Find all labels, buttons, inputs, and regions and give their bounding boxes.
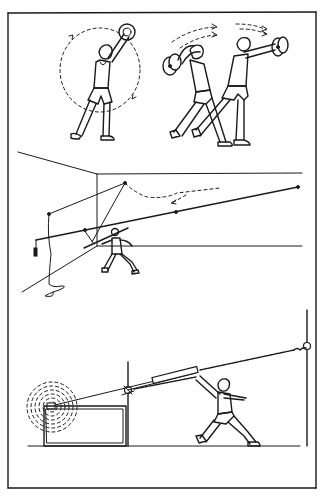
arrow-head-icon bbox=[132, 95, 136, 99]
pulling-athlete bbox=[196, 376, 260, 446]
panel-2-javelin-rig bbox=[18, 152, 302, 297]
cord bbox=[45, 214, 65, 297]
spring-coil bbox=[27, 382, 77, 432]
panel-1-weight-swings bbox=[60, 24, 288, 146]
athlete-2 bbox=[163, 45, 232, 146]
frame bbox=[8, 12, 316, 488]
weight bbox=[34, 248, 37, 256]
motion-arrow bbox=[172, 27, 216, 42]
javelin-thrower bbox=[102, 229, 139, 275]
cable bbox=[49, 183, 125, 214]
panel-3-pull-cable bbox=[27, 310, 311, 446]
spring-cable bbox=[200, 350, 294, 370]
illustration bbox=[0, 0, 325, 497]
stand-frame bbox=[44, 406, 126, 446]
guide-wire bbox=[36, 187, 298, 240]
athlete-1 bbox=[71, 24, 135, 140]
arrow-head-icon bbox=[262, 26, 267, 36]
arrow-head-icon bbox=[171, 200, 176, 204]
arrow-head-icon bbox=[69, 35, 73, 39]
illustration-canvas bbox=[0, 0, 325, 497]
trajectory-dashed bbox=[125, 183, 220, 198]
